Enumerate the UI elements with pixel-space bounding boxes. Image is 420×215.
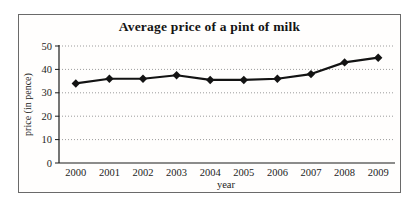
data-point-2006 [273, 75, 281, 83]
data-point-2000 [72, 79, 80, 87]
x-tick-label-2008: 2008 [334, 167, 355, 178]
price-line [76, 58, 378, 84]
data-point-2001 [105, 75, 113, 83]
y-tick-label-50: 50 [42, 41, 53, 52]
y-tick-label-40: 40 [42, 64, 53, 75]
x-tick-label-2003: 2003 [166, 167, 187, 178]
y-tick-label-10: 10 [42, 134, 53, 145]
x-tick-label-2007: 2007 [301, 167, 322, 178]
data-point-2004 [206, 76, 214, 84]
x-tick-label-2002: 2002 [133, 167, 154, 178]
x-axis-title: year [166, 179, 286, 190]
data-point-2002 [139, 75, 147, 83]
data-point-2007 [307, 70, 315, 78]
x-tick-label-2004: 2004 [200, 167, 222, 178]
x-tick-label-2006: 2006 [267, 167, 288, 178]
x-tick-label-2001: 2001 [99, 167, 120, 178]
x-tick-label-2005: 2005 [233, 167, 254, 178]
data-point-2003 [172, 71, 180, 79]
data-point-2009 [374, 54, 382, 62]
line-chart-plot: 0102030405020002001200220032004200520062… [19, 15, 400, 192]
x-tick-label-2000: 2000 [65, 167, 86, 178]
y-tick-label-0: 0 [47, 158, 52, 169]
y-axis-title: price (in pence) [22, 45, 35, 165]
data-point-2008 [340, 58, 348, 66]
y-tick-label-20: 20 [42, 111, 53, 122]
data-point-2005 [240, 76, 248, 84]
screenshot-canvas: Average price of a pint of milk 01020304… [0, 0, 420, 215]
chart-frame: Average price of a pint of milk 01020304… [18, 14, 401, 193]
x-tick-label-2009: 2009 [368, 167, 389, 178]
y-tick-label-30: 30 [42, 87, 53, 98]
